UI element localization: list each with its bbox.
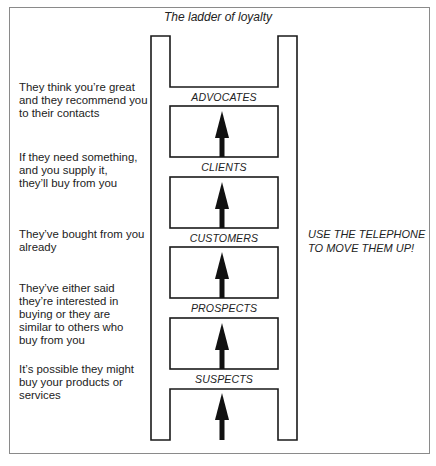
rung-label-suspects: SUSPECTS xyxy=(170,373,278,385)
description-clients: If they need something, and you supply i… xyxy=(19,151,149,190)
up-arrow-icon xyxy=(215,252,229,298)
description-suspects: It’s possible they might buy your produc… xyxy=(19,363,149,402)
description-prospects: They’ve either said they’re interested i… xyxy=(19,282,149,347)
up-arrow-icon xyxy=(215,393,229,440)
up-arrow-icon xyxy=(215,111,229,157)
description-advocates: They think you’re great and they recomme… xyxy=(19,81,149,120)
rung-label-clients: CLIENTS xyxy=(170,161,278,173)
telephone-callout: USE THE TELEPHONE TO MOVE THEM UP! xyxy=(308,227,433,255)
rung-label-prospects: PROSPECTS xyxy=(170,302,278,314)
up-arrow-icon xyxy=(215,323,229,369)
description-customers: They’ve bought from you already xyxy=(19,228,149,254)
rung-label-customers: CUSTOMERS xyxy=(170,232,278,244)
rung-label-advocates: ADVOCATES xyxy=(170,91,278,103)
up-arrow-icon xyxy=(215,182,229,228)
